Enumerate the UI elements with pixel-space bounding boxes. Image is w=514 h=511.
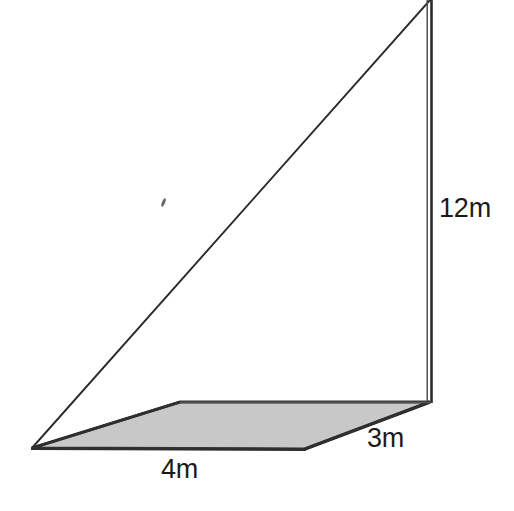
- figure-svg: [0, 0, 514, 511]
- base-front-edge: [31, 449, 306, 450]
- dimension-label-depth: 3m: [367, 425, 404, 452]
- dimension-label-height: 12m: [439, 195, 491, 222]
- geometry-diagram: 12m 3m 4m: [0, 0, 514, 511]
- dimension-label-width: 4m: [161, 456, 198, 483]
- hypotenuse-edge: [32, 0, 430, 448]
